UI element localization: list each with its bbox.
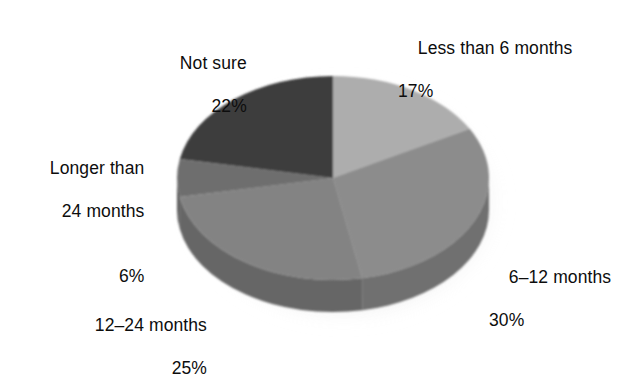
- slice-label-name: Not sure: [180, 53, 247, 73]
- slice-label-name: 6–12 months: [509, 267, 611, 287]
- slice-label-name-line2: 24 months: [30, 201, 144, 223]
- slice-label-not-sure: Not sure 22%: [160, 31, 247, 161]
- slice-label-6-12-months: 6–12 months 30%: [489, 245, 611, 375]
- slice-label-name: Longer than: [50, 158, 145, 178]
- slice-label-less-than-6-months: Less than 6 months 17%: [398, 16, 572, 146]
- slice-label-value: 6%: [30, 266, 144, 288]
- slice-label-value: 17%: [398, 81, 572, 103]
- slice-label-value: 30%: [489, 310, 611, 332]
- slice-label-value: 22%: [160, 96, 247, 118]
- slice-label-longer-than-24-months: Longer than 24 months 6%: [30, 136, 144, 331]
- slice-label-value: 25%: [75, 358, 207, 378]
- slice-label-name: Less than 6 months: [418, 38, 573, 58]
